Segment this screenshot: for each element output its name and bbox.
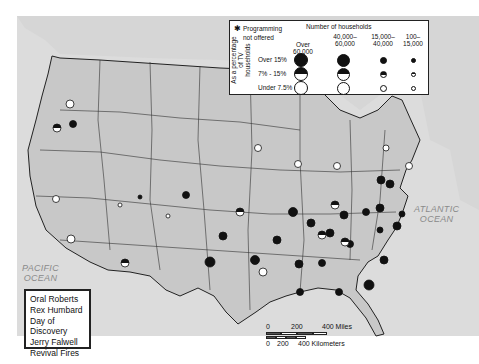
col3-line2: 15,000 (396, 40, 430, 47)
miles-tick-400: 400 Miles (322, 323, 352, 330)
program-item: Oral Roberts (30, 294, 85, 305)
column-header-15000-40000: 15,000– 40,000 (366, 33, 400, 47)
scale-segment (276, 336, 286, 339)
column-header-100-15000: 100– 15,000 (396, 33, 430, 47)
row-label-over-15: Over 15% (258, 56, 287, 63)
col3-line1: 100– (396, 33, 430, 40)
legend: ✱ Programming not offered Number of hous… (229, 20, 429, 95)
axis-line2: of TV households (237, 35, 251, 85)
atlantic-label-line1: ATLANTIC (414, 204, 459, 214)
row-label-7-15: 7% - 15% (258, 70, 286, 77)
legend-symbol-half-medium (337, 68, 350, 81)
legend-symbol-empty-large (294, 81, 308, 95)
legend-symbol-empty-tiny (411, 86, 416, 91)
pacific-label-line2: OCEAN (22, 273, 59, 283)
scale-segment (266, 332, 281, 335)
pacific-label-line1: PACIFIC (22, 263, 59, 273)
number-of-households-title: Number of households (306, 23, 371, 30)
km-tick-0: 0 (266, 340, 270, 347)
scale-segment (266, 336, 276, 339)
pno-line1: Programming (243, 24, 282, 33)
legend-symbol-empty-small (380, 85, 387, 92)
km-tick-200: 200 (277, 340, 289, 347)
program-item: Revival Fires (30, 348, 85, 359)
pacific-ocean-label: PACIFIC OCEAN (22, 263, 59, 283)
col2-line1: 15,000– (366, 33, 400, 40)
program-item: Rex Humbard (30, 305, 85, 316)
atlantic-ocean-label: ATLANTIC OCEAN (414, 204, 459, 224)
star-icon: ✱ (234, 24, 241, 33)
legend-symbol-half-large (294, 67, 308, 81)
legend-symbol-half-small (380, 71, 387, 78)
legend-symbol-full-tiny (411, 58, 416, 63)
percentage-axis-label: As a percentage of TV households (230, 35, 251, 85)
legend-symbol-full-medium (337, 54, 350, 67)
scale-segment (281, 332, 297, 335)
col1-line1: 40,000– (328, 33, 362, 40)
legend-symbol-full-small (380, 57, 387, 64)
atlantic-label-line2: OCEAN (414, 214, 459, 224)
km-tick-400: 400 Kilometers (298, 340, 345, 347)
axis-line1: As a percentage (230, 35, 237, 85)
miles-tick-200: 200 (291, 323, 303, 330)
program-item: Jerry Falwell (30, 337, 85, 348)
scale-segment (313, 332, 327, 335)
scale-segment (286, 336, 296, 339)
scale-segment (297, 332, 313, 335)
row-label-under-7-5: Under 7.5% (258, 84, 292, 91)
legend-symbol-half-tiny (411, 72, 416, 77)
miles-tick-0: 0 (266, 323, 270, 330)
column-header-40000-60000: 40,000– 60,000 (328, 33, 362, 47)
col2-line2: 40,000 (366, 40, 400, 47)
legend-symbol-full-large (294, 53, 308, 67)
program-item: Day of Discovery (30, 316, 85, 338)
programs-list-box: Oral Roberts Rex Humbard Day of Discover… (24, 289, 91, 349)
legend-symbol-empty-medium (337, 82, 350, 95)
scale-segment (296, 336, 306, 339)
col1-line2: 60,000 (328, 40, 362, 47)
